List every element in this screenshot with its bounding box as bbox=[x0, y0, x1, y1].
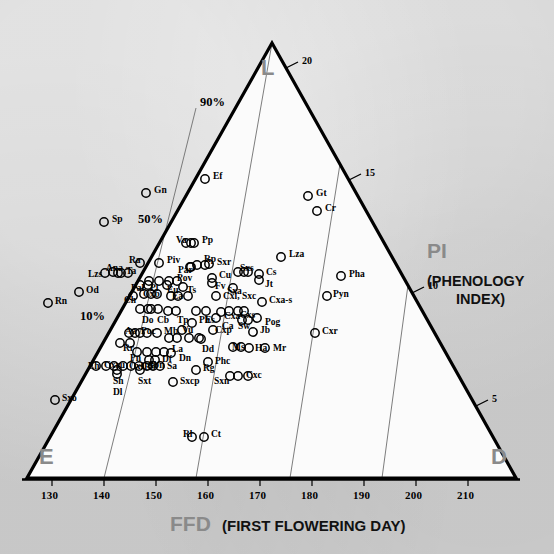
data-point-label: Ra bbox=[129, 256, 141, 266]
data-point-label: Ana bbox=[106, 264, 123, 274]
data-point-label: Gn bbox=[154, 186, 167, 196]
data-point-label: Mr bbox=[273, 344, 286, 354]
x-tick-190: 190 bbox=[353, 490, 370, 501]
data-point-label: Dn bbox=[179, 354, 191, 364]
x-tick-210: 210 bbox=[457, 490, 474, 501]
x-tick-160: 160 bbox=[197, 490, 214, 501]
data-point-label: Sxn bbox=[214, 377, 229, 387]
data-point-label: Ph bbox=[199, 316, 210, 326]
x-axis-full-label: (FIRST FLOWERING DAY) bbox=[222, 518, 406, 533]
data-point-label: Cxr bbox=[322, 327, 338, 337]
data-point-label: Ea bbox=[172, 292, 183, 302]
data-point-label: Sp bbox=[112, 215, 123, 225]
data-point-label: Dl bbox=[113, 388, 123, 398]
data-point-label: Ta bbox=[126, 267, 136, 277]
vertex-label-D: D bbox=[491, 446, 507, 468]
data-point-label: Sxr bbox=[217, 258, 231, 268]
data-point-marker bbox=[44, 299, 52, 307]
percent-tick-50: 50% bbox=[138, 213, 163, 226]
data-point-label: Pyn bbox=[333, 290, 349, 300]
data-point-label: Cxl, Sxc bbox=[223, 292, 256, 302]
data-point-label: Cu bbox=[219, 271, 231, 281]
data-point-label: Sa bbox=[167, 362, 177, 372]
data-point-label: Pp bbox=[202, 236, 213, 246]
x-axis-abbrev: FFD bbox=[170, 513, 211, 534]
data-point-label: Ch bbox=[124, 296, 136, 306]
data-point-label: Cb bbox=[157, 316, 169, 326]
data-point-label: Phc bbox=[215, 357, 230, 367]
vertex-label-L: L bbox=[261, 57, 274, 79]
data-point-label: Cxf bbox=[129, 362, 144, 372]
data-point-label: Ts bbox=[187, 286, 196, 296]
data-point-label: Eh bbox=[88, 362, 100, 372]
data-point-label: Rl bbox=[183, 430, 193, 440]
data-point-label: Ha bbox=[255, 344, 267, 354]
data-point-label: Sh bbox=[113, 377, 124, 387]
data-point-label: Sxt bbox=[138, 377, 151, 387]
data-point-label: Do bbox=[142, 316, 154, 326]
data-point-label: Sxo bbox=[62, 394, 77, 404]
vertex-label-E: E bbox=[39, 446, 54, 468]
x-tick-150: 150 bbox=[145, 490, 162, 501]
figure-container: L E D 20 15 10 5 90% 50% 10% 130 140 150… bbox=[0, 0, 554, 554]
data-point-label: Cxa-s bbox=[269, 296, 292, 306]
data-point-marker bbox=[51, 396, 59, 404]
pi-tick-15: 15 bbox=[365, 168, 375, 178]
data-point-label: Abn bbox=[147, 361, 164, 371]
data-point-label: Lzs bbox=[88, 270, 102, 280]
data-point-label: Ms bbox=[232, 343, 245, 353]
bottom-axis bbox=[22, 480, 520, 487]
data-point-marker bbox=[100, 218, 108, 226]
data-point-label: Sxs bbox=[240, 264, 254, 274]
data-point-label: Cs bbox=[266, 268, 277, 278]
data-point-label: Gt bbox=[316, 189, 327, 199]
percent-tick-90: 90% bbox=[200, 96, 225, 109]
data-point-label: Cxp bbox=[215, 326, 232, 336]
x-tick-140: 140 bbox=[93, 490, 110, 501]
data-point-label: Rn bbox=[55, 297, 67, 307]
pi-tick-5: 5 bbox=[492, 394, 497, 404]
data-point-label: Cxru bbox=[104, 361, 125, 371]
y-axis-abbrev: PI bbox=[427, 240, 447, 261]
data-point-marker bbox=[75, 288, 83, 296]
data-point-label: Cxc bbox=[246, 371, 262, 381]
x-tick-130: 130 bbox=[41, 490, 58, 501]
percent-tick-10: 10% bbox=[80, 310, 105, 323]
x-tick-170: 170 bbox=[249, 490, 266, 501]
y-axis-full-label-line2: INDEX) bbox=[456, 292, 505, 307]
data-point-label: Pov bbox=[177, 274, 192, 284]
data-point-label: Jb bbox=[260, 326, 270, 336]
pi-tick-20: 20 bbox=[302, 56, 312, 66]
x-tick-180: 180 bbox=[301, 490, 318, 501]
x-tick-200: 200 bbox=[405, 490, 422, 501]
data-point-label: Pha bbox=[349, 270, 365, 280]
data-point-label: Cxs bbox=[240, 311, 255, 321]
data-point-label: Od bbox=[86, 286, 99, 296]
data-point-label: Sw bbox=[238, 322, 250, 332]
data-point-label: Ef bbox=[213, 172, 223, 182]
data-point-label: Aa bbox=[125, 327, 137, 337]
data-point-label: Lza bbox=[289, 250, 304, 260]
data-point-label: Rp bbox=[204, 255, 216, 265]
y-axis-full-label-line1: (PHENOLOGY bbox=[427, 274, 524, 289]
data-point-label: Cxb bbox=[143, 290, 160, 300]
data-point-label: Mb bbox=[164, 327, 178, 337]
data-point-label: Cr bbox=[325, 204, 336, 214]
data-point-label: Sxcp bbox=[180, 377, 200, 387]
data-point-label: Dd bbox=[202, 345, 214, 355]
data-point-marker bbox=[142, 189, 150, 197]
data-point-label: Rg bbox=[203, 364, 215, 374]
data-point-label: Ct bbox=[211, 430, 221, 440]
data-point-label: Vu bbox=[182, 326, 193, 336]
data-point-label: Jt bbox=[265, 280, 273, 290]
data-point-label: Va bbox=[176, 236, 187, 246]
data-point-label: Poc bbox=[141, 327, 156, 337]
